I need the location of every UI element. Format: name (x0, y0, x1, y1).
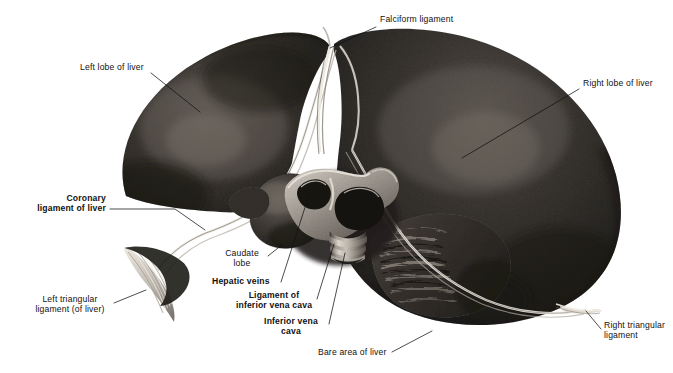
liver-illustration (0, 0, 673, 373)
label-right-lobe-of-liver: Right lobe of liver (583, 78, 653, 88)
label-bare-area-of-liver: Bare area of liver (318, 347, 387, 357)
label-falciform-ligament: Falciform ligament (380, 14, 453, 24)
label-ligament-of-inferior-vena-cava: Ligament of inferior vena cava (232, 290, 316, 311)
label-inferior-vena-cava: Inferior vena cava (256, 316, 326, 337)
label-caudate-lobe: Caudate lobe (218, 248, 266, 269)
leader-bare-area-of-liver (392, 331, 432, 352)
leader-left-triangular-ligament (114, 290, 146, 303)
label-left-lobe-of-liver: Left lobe of liver (80, 62, 144, 72)
label-right-triangular-ligament: Right triangular ligament (604, 320, 665, 341)
liver-anatomy-figure: Falciform ligament Left lobe of liver Ri… (0, 0, 673, 373)
leader-coronary-ligament-of-liver (110, 209, 205, 230)
label-coronary-ligament-of-liver: Coronary ligament of liver (0, 193, 106, 214)
label-hepatic-veins: Hepatic veins (212, 276, 270, 286)
label-left-triangular-ligament: Left triangular ligament (of liver) (27, 294, 113, 315)
